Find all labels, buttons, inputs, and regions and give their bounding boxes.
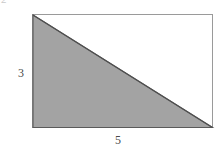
height-label: 3 <box>13 67 29 79</box>
geometry-figure: 2 3 5 <box>0 0 222 156</box>
figure-canvas <box>0 0 222 156</box>
width-label: 5 <box>110 134 126 146</box>
